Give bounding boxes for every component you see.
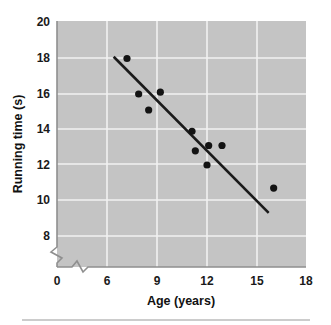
y-tick-label: 8 bbox=[43, 229, 50, 243]
x-tick-label: 12 bbox=[200, 274, 214, 288]
scatter-plot: 20 18 16 14 12 10 8 0 6 9 12 15 18 Age (… bbox=[0, 0, 331, 325]
data-point bbox=[123, 55, 130, 62]
chart-figure: 20 18 16 14 12 10 8 0 6 9 12 15 18 Age (… bbox=[0, 0, 331, 325]
x-tick-label: 6 bbox=[104, 274, 111, 288]
y-tick-label: 12 bbox=[37, 158, 51, 172]
data-point bbox=[192, 147, 199, 154]
data-point bbox=[135, 90, 142, 97]
y-tick-label: 14 bbox=[37, 122, 51, 136]
data-point bbox=[157, 89, 164, 96]
data-point bbox=[145, 106, 152, 113]
y-tick-label: 10 bbox=[37, 193, 51, 207]
x-axis-title: Age (years) bbox=[147, 294, 215, 308]
x-tick-label: 0 bbox=[54, 274, 61, 288]
data-point bbox=[188, 128, 195, 135]
x-tick-label: 18 bbox=[299, 274, 313, 288]
data-point bbox=[203, 161, 210, 168]
y-tick-label: 20 bbox=[37, 15, 51, 29]
data-point bbox=[218, 142, 225, 149]
data-point bbox=[270, 184, 277, 191]
y-tick-label: 16 bbox=[37, 87, 51, 101]
x-tick-label: 9 bbox=[154, 274, 161, 288]
y-tick-label: 18 bbox=[37, 51, 51, 65]
x-tick-label: 15 bbox=[250, 274, 264, 288]
y-axis-title: Running time (s) bbox=[11, 95, 25, 194]
data-point bbox=[205, 142, 212, 149]
